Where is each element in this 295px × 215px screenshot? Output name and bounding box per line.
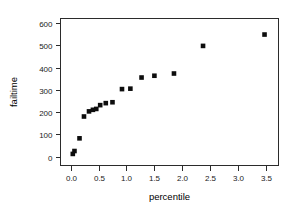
data-point [72, 149, 77, 154]
x-tick-label: 3.0 [233, 174, 245, 183]
x-tick-label: 0.5 [94, 174, 106, 183]
scatter-chart: 0100200300400500600 0.00.51.01.52.02.53.… [0, 0, 295, 215]
x-tick-label: 0.0 [66, 174, 78, 183]
y-tick-label: 200 [39, 109, 53, 118]
data-point [120, 87, 125, 92]
data-point [94, 107, 99, 112]
data-point [110, 100, 115, 105]
data-point [172, 71, 177, 76]
data-point [82, 114, 87, 119]
x-axis-title: percentile [149, 191, 190, 202]
y-tick-label: 300 [39, 87, 53, 96]
data-point [103, 101, 108, 106]
y-tick-label: 500 [39, 42, 53, 51]
data-point [87, 109, 92, 114]
chart-background [0, 0, 295, 215]
x-tick-label: 3.5 [261, 174, 273, 183]
data-point [262, 32, 267, 37]
x-tick-label: 2.0 [177, 174, 189, 183]
y-tick-label: 400 [39, 65, 53, 74]
y-axis-title: failtime [8, 77, 19, 107]
y-tick-label: 100 [39, 131, 53, 140]
data-point [77, 136, 82, 141]
y-tick-label: 0 [48, 154, 53, 163]
y-tick-label: 600 [39, 20, 53, 29]
data-point [128, 86, 133, 91]
data-point [139, 75, 144, 80]
x-tick-label: 2.5 [205, 174, 217, 183]
data-point [98, 103, 103, 108]
data-point [201, 44, 206, 49]
chart-canvas: 0100200300400500600 0.00.51.01.52.02.53.… [0, 0, 295, 215]
x-tick-label: 1.0 [121, 174, 133, 183]
data-point [152, 73, 157, 78]
x-tick-label: 1.5 [149, 174, 161, 183]
